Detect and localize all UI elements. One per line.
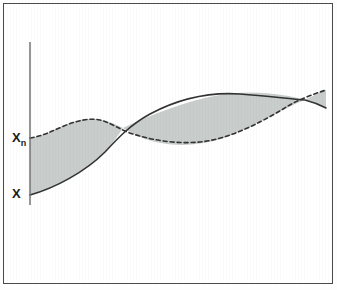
axis-label-x-base: X	[12, 186, 21, 201]
axis-label-xn: Xn	[12, 131, 26, 148]
figure-root: Xn X	[0, 0, 337, 290]
shaded-region-lobe-1	[30, 119, 123, 195]
axis-label-x: X	[12, 187, 21, 200]
axis-label-xn-subscript: n	[21, 138, 27, 148]
axis-label-xn-base: X	[12, 130, 21, 145]
shaded-region-lobe-3	[305, 90, 326, 108]
plot-canvas	[0, 0, 337, 290]
shaded-region-lobe-2	[123, 92, 305, 144]
